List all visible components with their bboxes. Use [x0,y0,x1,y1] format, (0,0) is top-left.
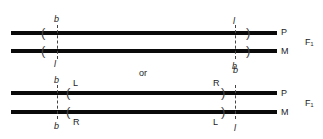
right-paren-icon: ) [221,105,225,118]
locus-label: l [54,60,56,69]
locus-label: b [233,66,238,75]
right-paren-icon: ) [221,86,225,99]
or-connector: or [139,68,147,78]
breakpoint-label: R [213,79,220,88]
left-paren-icon: ( [41,26,45,39]
generation-label: F₁ [305,37,314,47]
locus-label: b [54,15,59,24]
locus-label: l [234,124,236,133]
chromosome-bar-bottom-p [11,91,277,95]
generation-label: F₁ [305,98,314,108]
locus-dashed-line [235,85,236,119]
locus-label: l [233,17,235,26]
locus-dashed-line [235,25,236,59]
chromosome-label-m: M [281,107,289,117]
locus-label: b [54,76,59,85]
chromosome-bar-bottom-m [11,110,277,114]
left-paren-icon: ( [66,105,70,118]
chromosome-label-m: M [281,46,289,56]
breakpoint-label: L [73,79,78,88]
breakpoint-label: L [213,118,218,127]
left-paren-icon: ( [41,44,45,57]
locus-label: b [54,122,59,131]
chromosome-bar-top-m [11,49,277,53]
left-paren-icon: ( [66,86,70,99]
breakpoint-label: R [73,118,80,127]
chromosome-label-p: P [281,88,287,98]
locus-dashed-line [57,85,58,119]
right-paren-icon: ) [246,44,250,57]
right-paren-icon: ) [246,26,250,39]
locus-dashed-line [57,25,58,59]
chromosome-label-p: P [281,27,287,37]
chromosome-bar-top-p [11,31,277,35]
